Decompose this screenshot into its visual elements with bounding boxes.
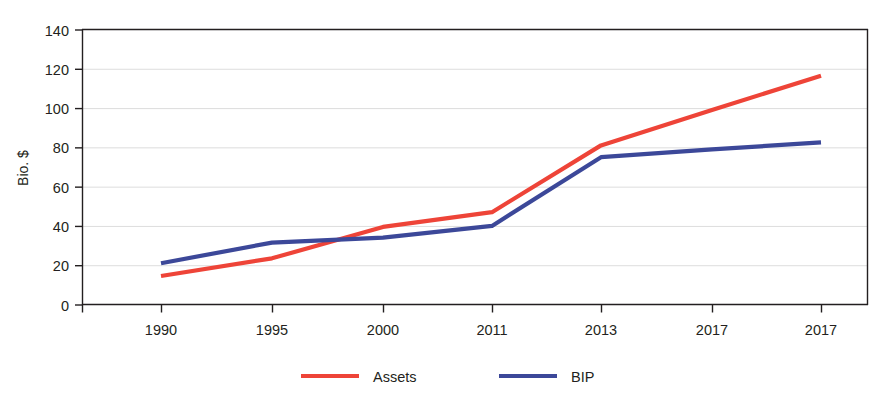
legend-label-assets: Assets <box>373 369 417 385</box>
y-tick-label: 20 <box>53 258 69 274</box>
y-tick-label: 0 <box>61 298 69 314</box>
y-tick-label: 60 <box>53 180 69 196</box>
y-tick-label: 100 <box>45 101 69 117</box>
x-tick-label: 1990 <box>145 322 177 338</box>
x-tick-label: 2000 <box>367 322 399 338</box>
chart-background <box>0 0 883 407</box>
x-tick-label: 2011 <box>476 322 507 338</box>
line-chart: 020406080100120140 199019952000201120132… <box>0 0 883 407</box>
legend-label-bip: BIP <box>571 369 594 385</box>
y-tick-label: 40 <box>53 219 69 235</box>
x-tick-label: 2013 <box>585 322 617 338</box>
x-tick-label: 2017 <box>696 322 728 338</box>
chart-title-cropped <box>0 0 883 7</box>
chart-canvas: 020406080100120140 199019952000201120132… <box>0 0 883 407</box>
y-tick-label: 140 <box>45 23 69 39</box>
y-tick-label: 80 <box>53 140 69 156</box>
y-tick-label: 120 <box>45 62 69 78</box>
x-tick-label: 1995 <box>256 322 288 338</box>
y-axis-title: Bio. $ <box>15 150 31 186</box>
x-tick-label: 2017 <box>805 322 837 338</box>
